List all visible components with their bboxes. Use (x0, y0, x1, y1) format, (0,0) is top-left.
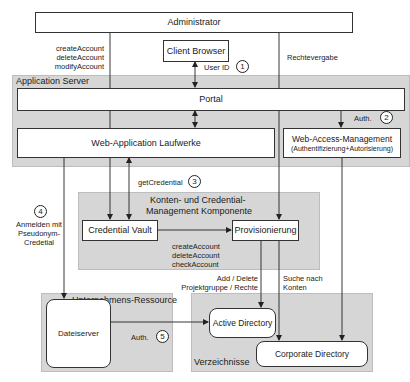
wam-subtitle: (Authentifizierung+Autorisierung) (291, 144, 393, 153)
active-directory-box: Active Directory (209, 308, 276, 338)
credential-vault-box: Credential Vault (82, 220, 158, 241)
step-4-badge: 4 (34, 205, 47, 218)
provisionierung-box: Provisionierung (232, 220, 299, 241)
auth-5-label: Auth. (131, 333, 149, 342)
administrator-box: Administrator (35, 12, 353, 33)
vault-ops-label: createAccount deleteAccount checkAccount (172, 242, 220, 269)
anmelden-label: Anmelden mit Pseudonym- Credetial (16, 220, 62, 247)
user-id-label: User ID (204, 63, 229, 72)
client-browser-box: Client Browser (163, 40, 229, 62)
step-5-badge: 5 (156, 330, 169, 343)
dateiserver-box: Dateiserver (46, 299, 111, 368)
rechtevergabe-label: Rechtevergabe (287, 53, 338, 62)
web-application-box: Web-Application Laufwerke (17, 128, 275, 158)
step-1-badge: 1 (236, 60, 249, 73)
step-2-badge: 2 (380, 111, 393, 124)
web-access-management-box: Web-Access-Management (Authentifizierung… (283, 128, 401, 158)
admin-ops-label: createAccount deleteAccount modifyAccoun… (52, 44, 104, 71)
wam-title: Web-Access-Management (292, 134, 392, 144)
suche-label: Suche nach Konten (283, 274, 323, 292)
portal-box: Portal (17, 88, 405, 111)
auth-2-label: Auth. (354, 114, 372, 123)
step-3-badge: 3 (188, 175, 201, 188)
corporate-directory-box: Corporate Directory (256, 341, 368, 367)
get-credential-label: getCredential (138, 178, 183, 187)
add-delete-label: Add / Delete Projektgruppe / Rechte (178, 274, 258, 292)
